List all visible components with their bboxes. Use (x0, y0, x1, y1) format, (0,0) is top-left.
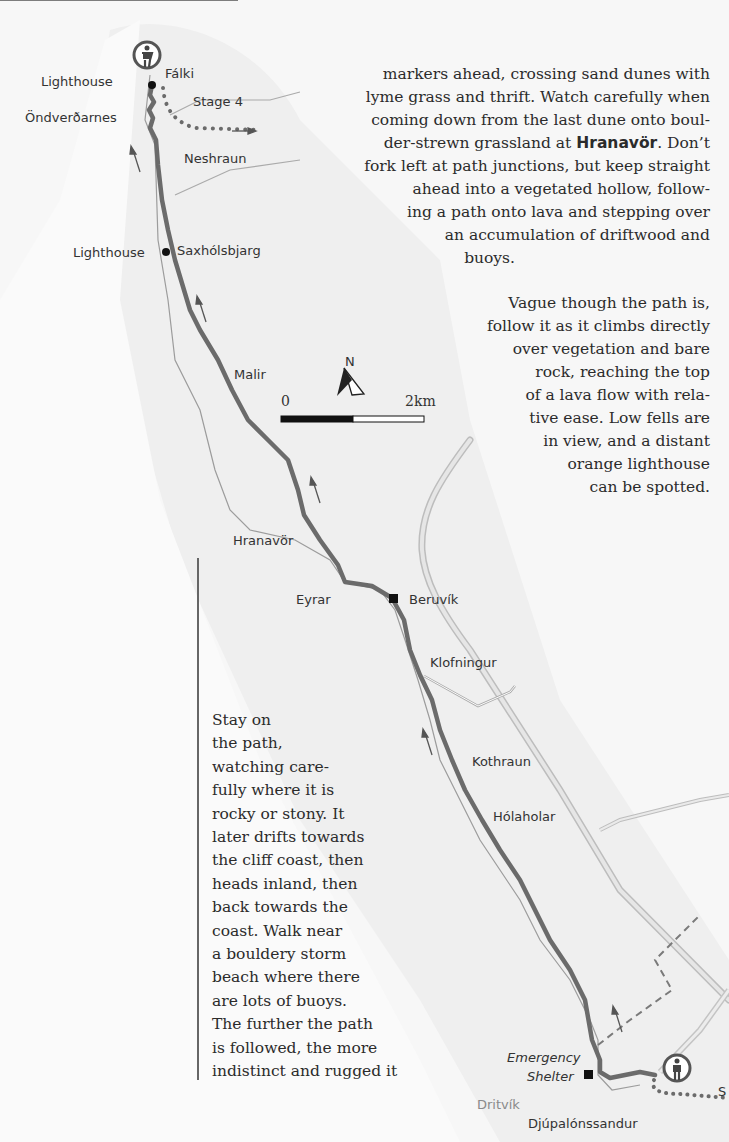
walker-icon-end (664, 1055, 690, 1081)
label-falki: Fálki (165, 67, 194, 80)
prose-line: can be spotted. (487, 476, 710, 499)
label-eyrar: Eyrar (296, 593, 331, 606)
prose-second: Vague though the path is, follow it as i… (487, 292, 710, 499)
prose-line: buoys. (364, 247, 710, 270)
prose-line: Stay on (212, 709, 397, 732)
shelter-marker (584, 1070, 593, 1079)
prose-line-bold: der-strewn grassland at Hranavör. Don’t (364, 132, 710, 155)
label-neshraun: Neshraun (184, 152, 247, 165)
label-malir: Malir (234, 368, 266, 381)
prose-line: rock, reaching the top (487, 361, 710, 384)
prose-line: lyme grass and thrift. Watch carefully w… (364, 86, 710, 109)
compass-label: N (345, 355, 355, 368)
prose-line: coast. Walk near (212, 920, 397, 943)
label-shelter: Shelter (527, 1070, 574, 1083)
prose-line: beach where there (212, 966, 397, 989)
prose-line: ahead into a vegetated hollow, follow- (364, 178, 710, 201)
prose-line: The further the path (212, 1013, 397, 1036)
prose-line: fully where it is (212, 779, 397, 802)
place-name-bold: Hranavör (576, 134, 657, 152)
prose-line: fork left at path junctions, but keep st… (364, 155, 710, 178)
prose-line: an accumulation of driftwood and (364, 224, 710, 247)
beruvik-marker (389, 594, 398, 603)
prose-line: indistinct and rugged it (212, 1060, 397, 1083)
prose-line: back towards the (212, 896, 397, 919)
label-dritvik: Dritvík (477, 1098, 520, 1111)
prose-line: a bouldery storm (212, 943, 397, 966)
scale-start: 0 (281, 393, 290, 409)
label-lighthouse-mid: Lighthouse (73, 246, 145, 259)
prose-line: over vegetation and bare (487, 338, 710, 361)
label-ondverdarnes: Öndverðarnes (25, 111, 117, 124)
prose-line: markers ahead, crossing sand dunes with (364, 63, 710, 86)
label-stage4: Stage 4 (193, 95, 243, 108)
prose-line: orange lighthouse (487, 453, 710, 476)
guidebook-page: Lighthouse Fálki Stage 4 Öndverðarnes Ne… (0, 0, 729, 1142)
prose-line: tive ease. Low fells are (487, 407, 710, 430)
label-beruvik: Beruvík (409, 593, 458, 606)
label-holaholar: Hólaholar (493, 810, 555, 823)
label-djupalonssandur: Djúpalónssandur (528, 1117, 637, 1130)
prose-line: heads inland, then (212, 873, 397, 896)
scale-end: 2km (405, 393, 436, 409)
prose-line: coming down from the last dune onto boul… (364, 109, 710, 132)
lighthouse-marker-saxholsbjarg (162, 248, 170, 256)
label-saxholsbjarg: Saxhólsbjarg (177, 244, 261, 257)
prose-line: later drifts towards (212, 826, 397, 849)
label-next-stage-cut: S (718, 1085, 726, 1098)
prose-top: markers ahead, crossing sand dunes with … (364, 63, 710, 270)
prose-line: is followed, the more (212, 1037, 397, 1060)
label-hranavor: Hranavör (233, 534, 293, 547)
prose-line: the path, (212, 732, 397, 755)
walker-icon-start (134, 42, 160, 68)
prose-line: rocky or stony. It (212, 803, 397, 826)
prose-side: Stay on the path, watching care- fully w… (212, 709, 397, 1084)
lighthouse-marker-top (148, 81, 156, 89)
prose-line: of a lava flow with rela- (487, 384, 710, 407)
label-klofningur: Klofningur (430, 656, 497, 669)
scale-bar (281, 416, 424, 422)
prose-line: the cliff coast, then (212, 849, 397, 872)
prose-line: are lots of buoys. (212, 990, 397, 1013)
label-lighthouse-top: Lighthouse (41, 75, 113, 88)
label-kothraun: Kothraun (472, 755, 531, 768)
prose-line: ing a path onto lava and stepping over (364, 201, 710, 224)
label-emergency: Emergency (507, 1051, 581, 1064)
prose-line: Vague though the path is, (487, 292, 710, 315)
prose-line: in view, and a distant (487, 430, 710, 453)
prose-line: follow it as it climbs directly (487, 315, 710, 338)
vertical-rule (197, 558, 199, 1080)
prose-line: watching care- (212, 756, 397, 779)
